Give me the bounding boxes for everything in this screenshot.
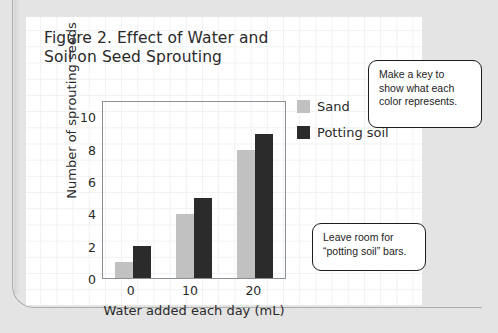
x-tick-label: 20 — [245, 283, 261, 298]
x-axis-ticks: 01020 — [103, 283, 285, 298]
bar-potting-soil-20 — [255, 134, 273, 278]
y-axis-ticks: 0246810 — [78, 101, 100, 279]
x-axis-label: Water added each day (mL) — [82, 303, 306, 318]
bar-sand-10 — [176, 214, 194, 278]
graph-paper-panel: Figure 2. Effect of Water and Soil on Se… — [26, 17, 422, 305]
bar-sand-0 — [115, 262, 133, 278]
bar-group — [115, 102, 151, 278]
bar-group — [176, 102, 212, 278]
y-tick-label: 2 — [88, 239, 96, 254]
y-tick-label: 8 — [88, 142, 96, 157]
worksheet-scene: Figure 2. Effect of Water and Soil on Se… — [0, 0, 498, 333]
bar-potting-soil-10 — [194, 198, 212, 278]
x-tick-label: 10 — [182, 283, 198, 298]
bars-layer — [103, 102, 285, 278]
bar-chart — [102, 101, 286, 279]
y-tick-label: 0 — [88, 272, 96, 287]
legend-swatch-icon — [297, 100, 310, 113]
y-axis-label: Number of sprouting seeds — [64, 21, 79, 201]
y-tick-label: 6 — [88, 174, 96, 189]
x-tick-label: 0 — [127, 283, 135, 298]
legend-swatch-icon — [297, 126, 310, 139]
bar-group — [237, 102, 273, 278]
callout-leave-room: Leave room for “potting soil” bars. — [312, 223, 426, 271]
bar-potting-soil-0 — [133, 246, 151, 278]
legend-label: Sand — [317, 99, 350, 114]
page-edge-shadow — [14, 0, 20, 294]
y-tick-label: 4 — [88, 207, 96, 222]
bar-sand-20 — [237, 150, 255, 278]
callout-make-key: Make a key to show what each color repre… — [368, 60, 482, 128]
y-tick-label: 10 — [80, 110, 96, 125]
figure-title: Figure 2. Effect of Water and Soil on Se… — [44, 29, 314, 67]
